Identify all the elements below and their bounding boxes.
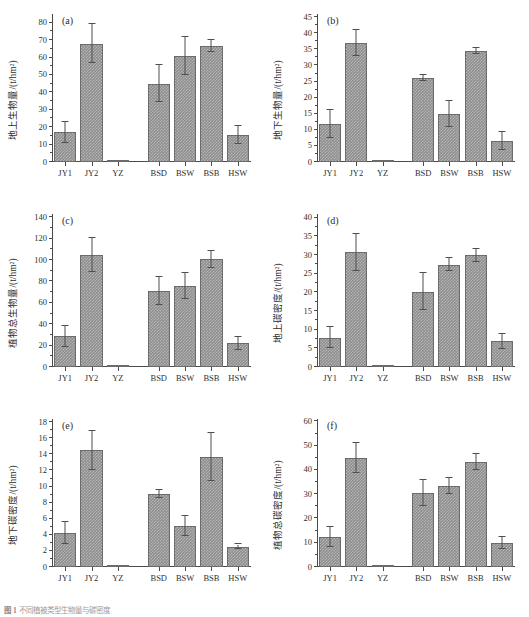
error-cap-HSW-upper bbox=[498, 536, 505, 537]
error-cap-JY1-upper bbox=[327, 326, 334, 327]
error-cap-HSW-lower bbox=[234, 548, 241, 549]
y-tick-label: 0 bbox=[43, 363, 52, 372]
bar-JY2[interactable] bbox=[345, 458, 367, 567]
x-tick-label-HSW: HSW bbox=[492, 373, 511, 383]
error-cap-BSW-upper bbox=[182, 515, 189, 516]
bar-HSW[interactable] bbox=[227, 547, 249, 567]
error-bar-HSW bbox=[501, 132, 502, 150]
error-bar-JY2 bbox=[91, 24, 92, 62]
y-tick-label: 10 bbox=[304, 126, 318, 135]
x-tick-label-BSB: BSB bbox=[203, 373, 219, 383]
y-tick-label: 15 bbox=[304, 110, 318, 119]
panel-c: 植物总生物量/(t/hm²)(c)020406080100120140JY1JY… bbox=[0, 200, 265, 405]
x-tick-label-BSW: BSW bbox=[176, 168, 194, 178]
x-tick-label-YZ: YZ bbox=[377, 373, 388, 383]
y-tick-label: 0 bbox=[308, 158, 317, 167]
bar-BSD[interactable] bbox=[148, 494, 170, 567]
error-cap-JY1-upper bbox=[62, 521, 69, 522]
error-cap-JY2-lower bbox=[88, 271, 95, 272]
caption-text: 不同植被类型生物量与碳密度 bbox=[19, 606, 110, 615]
y-tick-label: 100 bbox=[34, 256, 52, 265]
bar-BSW[interactable] bbox=[438, 265, 460, 367]
error-cap-JY2-lower bbox=[88, 62, 95, 63]
error-bar-BSD bbox=[423, 480, 424, 506]
y-tick-label: 40 bbox=[304, 213, 318, 222]
x-tick-mark bbox=[238, 367, 239, 371]
bar-group: BSD bbox=[410, 214, 436, 367]
y-tick-label: 10 bbox=[39, 140, 53, 149]
error-bar-BSW bbox=[185, 516, 186, 535]
error-cap-JY1-lower bbox=[62, 346, 69, 347]
error-cap-JY1-upper bbox=[62, 325, 69, 326]
x-tick-mark bbox=[356, 367, 357, 371]
x-tick-label-BSD: BSD bbox=[150, 373, 167, 383]
x-tick-mark bbox=[476, 367, 477, 371]
x-tick-mark bbox=[502, 162, 503, 166]
y-tick-label: 20 bbox=[304, 514, 318, 523]
x-tick-label-YZ: YZ bbox=[112, 373, 123, 383]
error-cap-HSW-upper bbox=[498, 333, 505, 334]
x-tick-mark bbox=[118, 162, 119, 166]
x-tick-label-JY1: JY1 bbox=[323, 168, 337, 178]
bar-BSB[interactable] bbox=[465, 462, 487, 567]
x-tick-label-HSW: HSW bbox=[228, 168, 247, 178]
bar-BSB[interactable] bbox=[465, 51, 487, 162]
error-cap-BSB-lower bbox=[208, 480, 215, 481]
panel-tag: (c) bbox=[62, 215, 73, 226]
bar-group: BSW bbox=[172, 419, 198, 567]
y-tick-label: 40 bbox=[304, 466, 318, 475]
error-bar-JY1 bbox=[65, 522, 66, 545]
error-bar-BSB bbox=[211, 433, 212, 481]
x-tick-label-JY2: JY2 bbox=[85, 573, 99, 583]
panel-tag: (b) bbox=[327, 15, 339, 26]
bar-group: HSW bbox=[225, 419, 251, 567]
x-tick-mark bbox=[238, 162, 239, 166]
error-cap-BSW-lower bbox=[182, 298, 189, 299]
bar-BSB[interactable] bbox=[200, 46, 222, 162]
y-tick-label: 15 bbox=[304, 307, 318, 316]
error-cap-BSW-upper bbox=[446, 100, 453, 101]
x-tick-label-JY2: JY2 bbox=[349, 373, 363, 383]
bar-group: JY1 bbox=[52, 214, 78, 367]
x-tick-mark bbox=[449, 367, 450, 371]
error-cap-BSB-lower bbox=[472, 261, 479, 262]
y-tick-label: 60 bbox=[39, 53, 53, 62]
y-tick-label: 10 bbox=[39, 482, 53, 491]
error-cap-JY2-lower bbox=[88, 469, 95, 470]
x-tick-label-YZ: YZ bbox=[112, 573, 123, 583]
x-tick-label-BSB: BSB bbox=[468, 373, 484, 383]
bar-group: JY2 bbox=[343, 419, 369, 567]
bar-group: JY1 bbox=[317, 214, 343, 367]
bar-BSB[interactable] bbox=[200, 259, 222, 367]
x-tick-label-BSW: BSW bbox=[176, 373, 194, 383]
plot-area: (d)0510152025303540JY1JY2YZBSDBSWBSBHSW bbox=[317, 214, 515, 367]
bar-JY2[interactable] bbox=[345, 43, 367, 162]
error-cap-BSW-lower bbox=[446, 270, 453, 271]
x-tick-label-BSD: BSD bbox=[415, 168, 432, 178]
x-tick-mark bbox=[356, 567, 357, 571]
error-cap-JY1-lower bbox=[327, 137, 334, 138]
x-tick-mark bbox=[118, 567, 119, 571]
y-tick-label: 6 bbox=[43, 515, 52, 524]
bar-BSB[interactable] bbox=[465, 255, 487, 367]
error-cap-BSW-upper bbox=[446, 257, 453, 258]
error-bar-BSD bbox=[158, 277, 159, 305]
y-tick-label: 80 bbox=[39, 18, 53, 27]
x-tick-label-YZ: YZ bbox=[377, 168, 388, 178]
x-tick-label-JY1: JY1 bbox=[58, 573, 72, 583]
bar-BSW[interactable] bbox=[438, 486, 460, 567]
x-tick-mark bbox=[185, 567, 186, 571]
plot-area: (f)0102030405060JY1JY2YZBSDBSWBSBHSW bbox=[317, 419, 515, 567]
error-bar-JY1 bbox=[330, 527, 331, 546]
x-tick-mark bbox=[211, 367, 212, 371]
x-tick-label-BSB: BSB bbox=[468, 573, 484, 583]
y-tick-label: 14 bbox=[39, 450, 53, 459]
y-tick-label: 0 bbox=[43, 158, 52, 167]
x-tick-label-JY1: JY1 bbox=[323, 373, 337, 383]
panel-grid: 地上生物量/(t/hm²)(a)01020304050607080JY1JY2Y… bbox=[0, 0, 529, 605]
y-axis-label-text: 植物总碳密度/(t/hm²) bbox=[270, 460, 284, 549]
bar-group: BSD bbox=[410, 14, 436, 162]
x-tick-label-YZ: YZ bbox=[112, 168, 123, 178]
error-cap-BSB-upper bbox=[208, 250, 215, 251]
bar-BSD[interactable] bbox=[412, 78, 434, 162]
